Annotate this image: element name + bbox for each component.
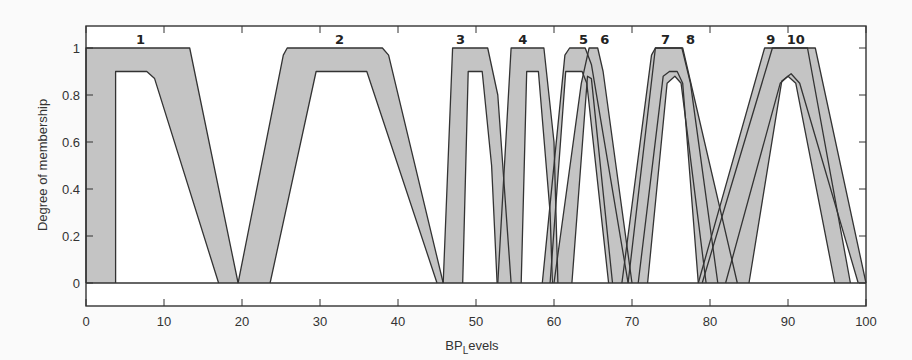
x-tick-label: 50 — [469, 314, 483, 329]
y-tick-label: 0 — [73, 276, 80, 291]
x-tick-label: 80 — [703, 314, 717, 329]
x-tick-label: 70 — [625, 314, 639, 329]
x-tick-label: 30 — [313, 314, 327, 329]
membership-chart: 12345678910 0102030405060708090100 00.20… — [0, 0, 912, 360]
x-tick-label: 40 — [391, 314, 405, 329]
y-tick-label: 0.6 — [62, 135, 80, 150]
y-tick-label: 0.2 — [62, 229, 80, 244]
set-label-4: 4 — [518, 32, 527, 47]
y-axis-label: Degree of membership — [35, 99, 50, 231]
set-label-1: 1 — [136, 32, 145, 47]
x-tick-label: 10 — [157, 314, 171, 329]
set-label-2: 2 — [335, 32, 344, 47]
y-tick-label: 1 — [73, 41, 80, 56]
x-tick-label: 0 — [82, 314, 89, 329]
set-label-5: 5 — [579, 32, 588, 47]
set-label-3: 3 — [456, 32, 465, 47]
chart-container: 12345678910 0102030405060708090100 00.20… — [0, 0, 912, 360]
set-label-6: 6 — [600, 32, 609, 47]
x-tick-label: 20 — [235, 314, 249, 329]
y-tick-label: 0.8 — [62, 88, 80, 103]
y-tick-label: 0.4 — [62, 182, 80, 197]
set-label-8: 8 — [686, 32, 695, 47]
x-tick-label: 60 — [547, 314, 561, 329]
set-label-10: 10 — [787, 32, 805, 47]
x-tick-label: 100 — [855, 314, 877, 329]
set-label-9: 9 — [766, 32, 775, 47]
set-label-7: 7 — [661, 32, 670, 47]
x-tick-label: 90 — [781, 314, 795, 329]
